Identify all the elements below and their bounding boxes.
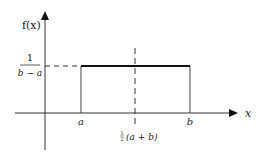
tick-label-b: b [187,116,193,127]
y-axis-arrow-icon [41,11,49,20]
tick-label-a: a [78,116,84,127]
height-numerator: 1 [27,52,33,63]
mid-rest: (a + b) [126,132,158,142]
height-denominator: b − a [18,68,42,78]
y-axis-label: f(x) [22,19,41,32]
x-axis-label: x [245,107,252,120]
tick-label-midpoint: 1 2 (a + b) [120,130,158,142]
mid-frac-den: 2 [120,136,123,142]
uniform-distribution-diagram: f(x) x 1 b − a a b 1 2 (a + b) [0,0,261,154]
x-axis-arrow-icon [229,109,238,117]
